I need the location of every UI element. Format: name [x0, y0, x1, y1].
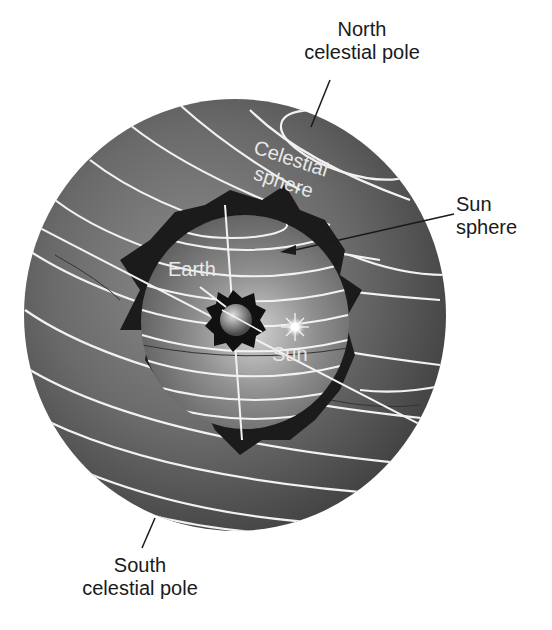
south-pole-line1: South	[55, 554, 225, 577]
sun-label: Sun	[272, 343, 308, 365]
south-pole-leader	[142, 518, 155, 548]
north-pole-line1: North	[272, 18, 452, 41]
south-celestial-pole-label: South celestial pole	[55, 554, 225, 600]
north-celestial-pole-label: North celestial pole	[272, 18, 452, 64]
sun-sphere-line1: Sun	[456, 193, 536, 216]
sun-sphere-label: Sun sphere	[456, 193, 536, 239]
celestial-sphere-diagram	[0, 0, 552, 630]
sun-sphere-line2: sphere	[456, 216, 536, 239]
earth-label: Earth	[168, 258, 216, 280]
south-pole-line2: celestial pole	[55, 577, 225, 600]
north-pole-line2: celestial pole	[272, 41, 452, 64]
